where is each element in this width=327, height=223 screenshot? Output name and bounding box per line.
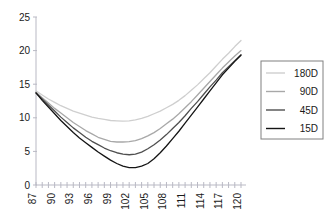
y-tick-label: 20 <box>19 45 31 56</box>
x-tick-label: 111 <box>176 193 187 209</box>
y-tick-label: 0 <box>24 180 30 191</box>
x-tick-label: 114 <box>195 193 206 209</box>
x-axis: 8790939699102105108111114117120 <box>27 182 246 210</box>
series-lines <box>36 41 241 168</box>
x-tick-label: 105 <box>139 193 150 210</box>
line-chart: 0510152025 87909396991021051081111141171… <box>0 0 327 223</box>
x-tick-label: 108 <box>157 193 168 210</box>
x-tick-label: 120 <box>232 193 243 210</box>
chart-legend: 180D90D45D15D <box>261 61 323 139</box>
legend-label-45d: 45D <box>300 105 318 116</box>
series-line-90d <box>36 51 241 142</box>
x-tick-label: 90 <box>46 193 57 205</box>
legend-label-180d: 180D <box>294 68 318 79</box>
x-tick-label: 93 <box>64 193 75 205</box>
x-tick-label: 87 <box>27 193 38 205</box>
y-tick-label: 15 <box>19 79 31 90</box>
y-tick-label: 10 <box>19 112 31 123</box>
x-tick-label: 102 <box>120 193 131 210</box>
y-tick-label: 5 <box>24 146 30 157</box>
y-tick-label: 25 <box>19 12 31 23</box>
legend-label-90d: 90D <box>300 86 318 97</box>
legend-label-15d: 15D <box>300 123 318 134</box>
x-tick-label: 117 <box>213 193 224 209</box>
x-tick-label: 96 <box>83 193 94 205</box>
x-tick-label: 99 <box>102 193 113 205</box>
chart-canvas: 0510152025 87909396991021051081111141171… <box>0 0 327 223</box>
y-axis: 0510152025 <box>19 12 37 191</box>
